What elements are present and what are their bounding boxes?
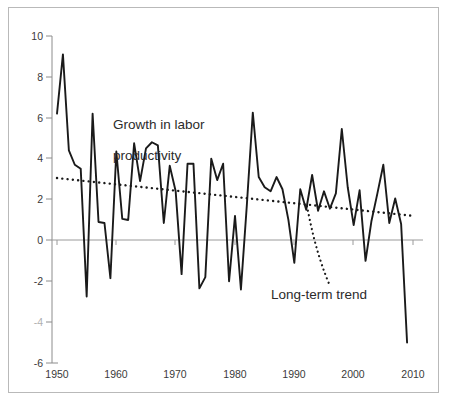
x-tick-label: 1970 xyxy=(155,368,195,380)
x-axis-ticks xyxy=(57,240,413,245)
trend-leader-line xyxy=(307,206,330,286)
annotation-long-term-trend: Long-term trend xyxy=(271,287,367,303)
y-tick-label: -2 xyxy=(19,275,43,287)
x-tick-label: 1950 xyxy=(37,368,77,380)
y-tick-label: -4 xyxy=(19,316,43,328)
chart-plot-area xyxy=(0,0,449,404)
x-tick-label: 1990 xyxy=(274,368,314,380)
x-tick-label: 2010 xyxy=(393,368,433,380)
y-axis-ticks xyxy=(46,36,52,363)
figure-frame: 10 8 6 4 2 0 -2 -4 -6 1950 1960 1970 198… xyxy=(0,0,449,404)
annotation-growth-line-2: productivity xyxy=(113,148,205,164)
x-tick-label: 1960 xyxy=(96,368,136,380)
annotation-growth-in-labor-productivity: Growth in labor productivity xyxy=(113,101,205,179)
y-tick-label: 4 xyxy=(19,152,43,164)
x-tick-label: 1980 xyxy=(215,368,255,380)
y-tick-label: 10 xyxy=(19,30,43,42)
x-tick-label: 2000 xyxy=(333,368,373,380)
y-tick-label: 2 xyxy=(19,193,43,205)
y-tick-label: 0 xyxy=(19,234,43,246)
y-tick-label: 8 xyxy=(19,71,43,83)
y-tick-label: 6 xyxy=(19,112,43,124)
annotation-growth-line-1: Growth in labor xyxy=(113,117,205,133)
